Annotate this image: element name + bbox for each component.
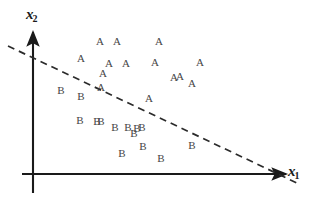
data-point-a: A: [196, 57, 204, 68]
data-point-a: A: [122, 58, 130, 69]
data-point-b: B: [93, 116, 100, 127]
data-point-b: B: [139, 141, 146, 152]
data-point-b: B: [57, 85, 64, 96]
plot-svg: [0, 0, 314, 204]
data-point-b: B: [76, 115, 83, 126]
data-point-a: A: [96, 36, 104, 47]
y-axis-label-subscript: 2: [33, 13, 38, 24]
y-axis-label: x2: [26, 6, 38, 24]
data-point-b: B: [118, 148, 125, 159]
x-axis-label: x1: [288, 163, 300, 181]
data-point-b: B: [77, 91, 84, 102]
data-point-a: A: [155, 36, 163, 47]
figure-canvas: x2 x1 AAAAAAAAAAAAAABBBBBBBBBBBBBB: [0, 0, 314, 204]
data-point-b: B: [188, 140, 195, 151]
data-point-a: A: [99, 68, 107, 79]
x-axis-label-subscript: 1: [295, 170, 300, 181]
data-point-a: A: [188, 78, 196, 89]
data-point-b: B: [157, 153, 164, 164]
data-point-a: A: [170, 72, 178, 83]
data-point-a: A: [97, 82, 105, 93]
data-point-a: A: [77, 53, 85, 64]
data-point-a: A: [113, 36, 121, 47]
data-point-b: B: [133, 123, 140, 134]
data-point-b: B: [111, 122, 118, 133]
data-point-a: A: [145, 93, 153, 104]
data-point-a: A: [151, 57, 159, 68]
